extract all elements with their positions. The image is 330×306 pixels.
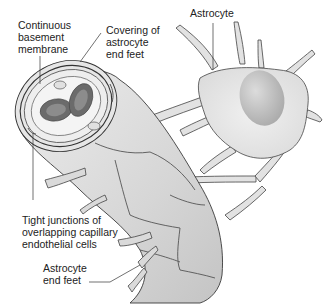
- label-astrocyte: Astrocyte: [190, 7, 234, 19]
- label-astrocyte-end-feet: Astrocyte end feet: [43, 262, 87, 286]
- label-continuous-basement-membrane: Continuous basement membrane: [18, 19, 71, 55]
- label-covering-astrocyte-end-feet: Covering of astrocyte end feet: [106, 24, 160, 60]
- label-tight-junctions: Tight junctions of overlapping capillary…: [22, 214, 118, 250]
